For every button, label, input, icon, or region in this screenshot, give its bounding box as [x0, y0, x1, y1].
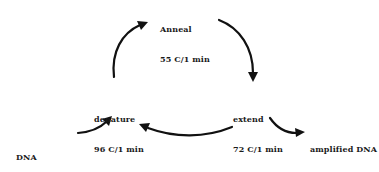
stage-extend: extend 72 C/1 min — [233, 94, 283, 172]
stage-name: extend — [233, 114, 283, 124]
stage-condition: 96 C/1 min — [94, 144, 144, 154]
output-label: amplified DNA — [310, 124, 377, 172]
input-line: DNA — [16, 152, 87, 162]
output-text: amplified DNA — [310, 144, 377, 154]
arrow-denature-to-anneal — [114, 21, 148, 77]
stage-name: Anneal — [160, 24, 210, 34]
inputs-label: DNA excess primers Taq polymerase — [16, 132, 87, 172]
stage-denature: denature 96 C/1 min — [94, 94, 144, 172]
stage-anneal: Anneal 55 C/1 min — [160, 4, 210, 84]
stage-condition: 72 C/1 min — [233, 144, 283, 154]
pcr-cycle-diagram: Anneal 55 C/1 min denature 96 C/1 min ex… — [0, 0, 379, 172]
arrow-anneal-to-extend — [219, 20, 258, 82]
stage-name: denature — [94, 114, 144, 124]
stage-condition: 55 C/1 min — [160, 54, 210, 64]
arrow-extend-to-denature — [139, 123, 232, 135]
